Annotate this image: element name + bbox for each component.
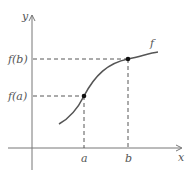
a-label: a [81, 152, 88, 165]
point-a [82, 94, 87, 99]
function-graph: y x f f(b) f(a) a b [0, 0, 189, 176]
y-axis-label: y [21, 10, 29, 23]
x-axis-label: x [178, 151, 185, 164]
x-axis [8, 145, 182, 151]
b-label: b [125, 152, 132, 165]
fa-label: f(a) [7, 90, 27, 103]
curve-label: f [149, 37, 156, 50]
curve-f [59, 52, 158, 124]
y-axis [29, 15, 35, 170]
fb-label: f(b) [7, 53, 28, 66]
point-b [126, 57, 131, 62]
